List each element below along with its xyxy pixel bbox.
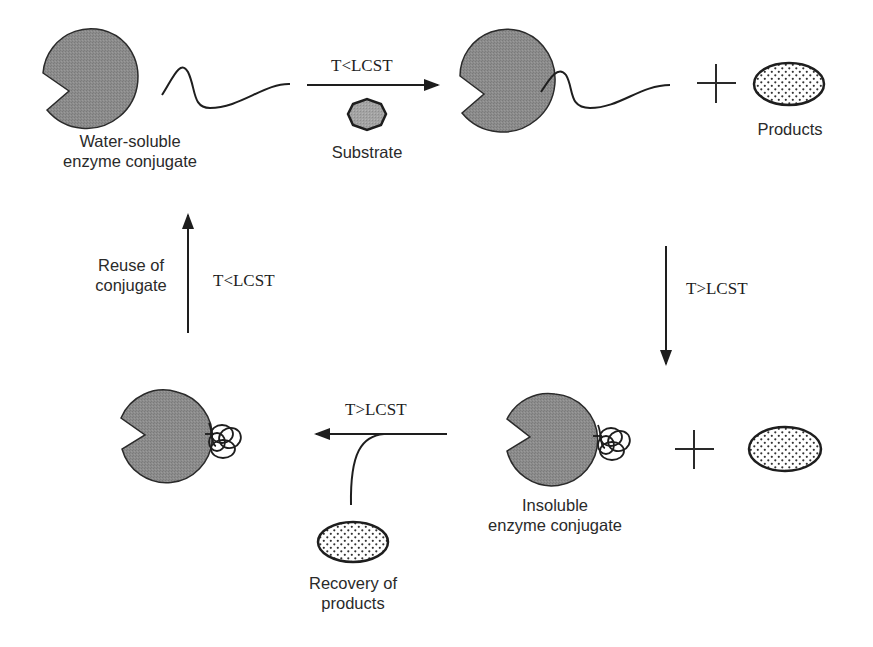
label-line: Reuse of: [84, 255, 178, 275]
right-arrow-condition: T>LCST: [686, 279, 748, 299]
left-arrow-condition: T<LCST: [213, 271, 275, 291]
insoluble-enzyme-icon: [507, 393, 633, 485]
water-soluble-conjugate-label: Water-soluble enzyme conjugate: [30, 131, 230, 171]
label-line: Recovery of: [293, 573, 413, 593]
reuse-of-conjugate-label: Reuse of conjugate: [84, 255, 178, 295]
recovery-branch-line: [351, 434, 384, 505]
product-icon-top: [754, 63, 824, 105]
plus-sign-bottom: [675, 430, 714, 469]
insoluble-conjugate-label: Insoluble enzyme conjugate: [480, 495, 630, 535]
recovered-product-icon: [318, 522, 388, 562]
bottom-arrow-condition: T>LCST: [345, 400, 407, 420]
recovered-enzyme-icon: [121, 390, 244, 483]
enzyme-conjugate-cycle-diagram: Water-soluble enzyme conjugate T<LCST Su…: [0, 0, 873, 647]
label-line: enzyme conjugate: [480, 515, 630, 535]
substrate-icon: [348, 99, 386, 130]
enzyme-with-extended-chain-icon: [460, 29, 670, 132]
recovery-of-products-label: Recovery of products: [293, 573, 413, 613]
label-line: Insoluble: [480, 495, 630, 515]
label-line: Water-soluble: [30, 131, 230, 151]
product-icon-bottom: [749, 427, 821, 471]
plus-sign-top: [697, 64, 736, 103]
diagram-canvas: [0, 0, 873, 647]
top-arrow-condition: T<LCST: [331, 56, 393, 76]
water-soluble-enzyme-icon: [43, 29, 290, 129]
label-line: enzyme conjugate: [30, 151, 230, 171]
label-line: products: [293, 593, 413, 613]
products-label: Products: [744, 119, 836, 139]
label-line: conjugate: [84, 275, 178, 295]
substrate-label: Substrate: [317, 142, 417, 162]
